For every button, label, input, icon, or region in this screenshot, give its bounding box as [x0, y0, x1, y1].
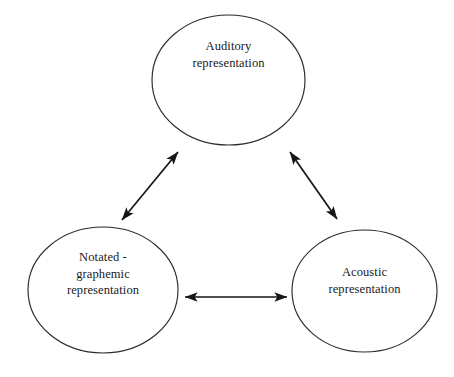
node-auditory [152, 15, 305, 145]
diagram-graphics [0, 0, 454, 377]
connector-auditory-acoustic [290, 152, 337, 219]
diagram-canvas: Auditory representation Notated - graphe… [0, 0, 454, 377]
connector-notated-auditory [122, 152, 178, 220]
node-acoustic [292, 230, 437, 352]
node-notated-graphemic [28, 227, 178, 353]
